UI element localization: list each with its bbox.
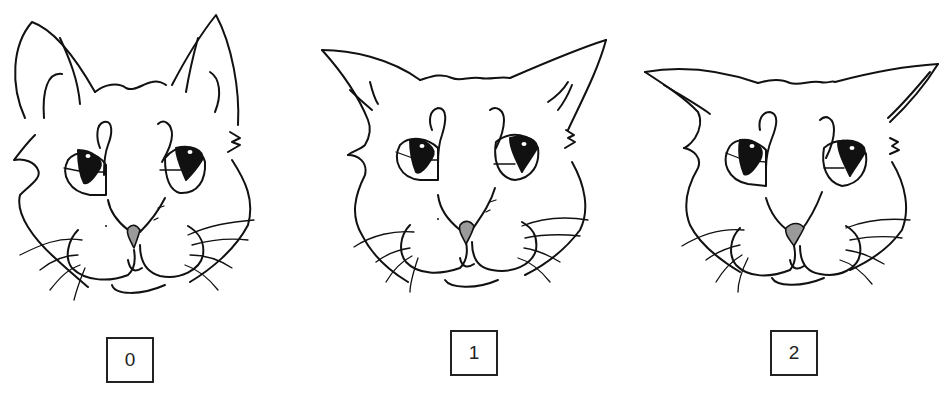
score-label-0: 0 [106, 337, 154, 383]
cat-face-ears-upright [0, 0, 300, 310]
score-label-1: 1 [450, 330, 498, 376]
score-label-2: 2 [770, 330, 818, 376]
cat-face-ears-partially-rotated [310, 30, 630, 310]
cat-face-ears-flattened [640, 50, 947, 310]
